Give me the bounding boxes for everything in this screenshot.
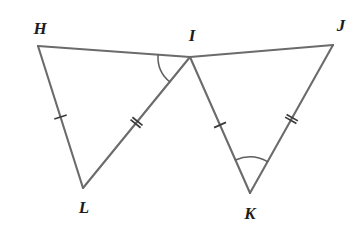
vertex-label-I: I [189, 27, 196, 44]
vertex-label-H: H [33, 20, 46, 37]
tick-KJ-1 [285, 117, 296, 123]
segment-HI [38, 46, 190, 57]
tick-marks-layer [54, 115, 298, 128]
segment-IJ [190, 45, 333, 57]
angle-HIL [158, 55, 170, 82]
tick-KJ-2 [287, 115, 298, 121]
angle-IKJ [235, 157, 267, 162]
geometry-canvas [0, 0, 361, 230]
vertex-label-L: L [79, 199, 89, 216]
geometry-diagram: HIJLK [0, 0, 361, 230]
segment-LI [83, 57, 190, 188]
segment-KJ [250, 45, 333, 193]
vertex-label-K: K [244, 205, 255, 222]
vertex-label-J: J [337, 17, 346, 34]
